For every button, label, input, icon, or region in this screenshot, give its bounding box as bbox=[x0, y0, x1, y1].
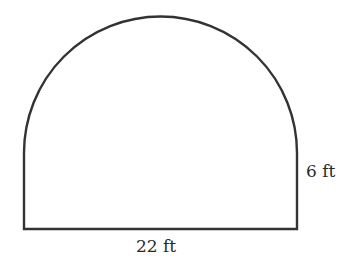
width-label: 22 ft bbox=[136, 238, 176, 255]
composite-shape-diagram bbox=[0, 0, 358, 264]
side-height-label: 6 ft bbox=[306, 163, 335, 180]
shape-outline bbox=[24, 17, 297, 230]
